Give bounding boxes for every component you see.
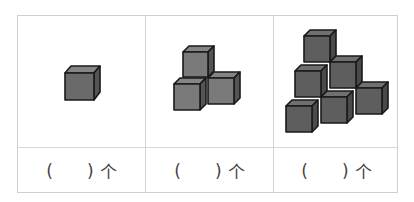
open-paren: ( xyxy=(174,161,181,181)
answer-cell-3[interactable]: ( ) 个 xyxy=(274,148,399,193)
unit-label: 个 xyxy=(355,158,372,183)
cube-figure-1 xyxy=(18,16,145,147)
open-paren: ( xyxy=(301,161,308,181)
cube-stack-icon xyxy=(146,16,273,147)
answer-cell-1[interactable]: ( ) 个 xyxy=(18,148,145,193)
close-paren: ) xyxy=(87,161,94,181)
cube-figure-3 xyxy=(274,16,399,147)
close-paren: ) xyxy=(342,161,349,181)
cube-figure-2 xyxy=(146,16,273,147)
unit-label: 个 xyxy=(100,158,117,183)
cube-pyramid-icon xyxy=(274,16,399,147)
cube-icon xyxy=(18,16,145,147)
answer-cell-2[interactable]: ( ) 个 xyxy=(146,148,273,193)
close-paren: ) xyxy=(215,161,222,181)
cube-counting-table: ( ) 个 ( ) 个 ( ) 个 xyxy=(17,15,398,193)
open-paren: ( xyxy=(46,161,53,181)
unit-label: 个 xyxy=(228,158,245,183)
